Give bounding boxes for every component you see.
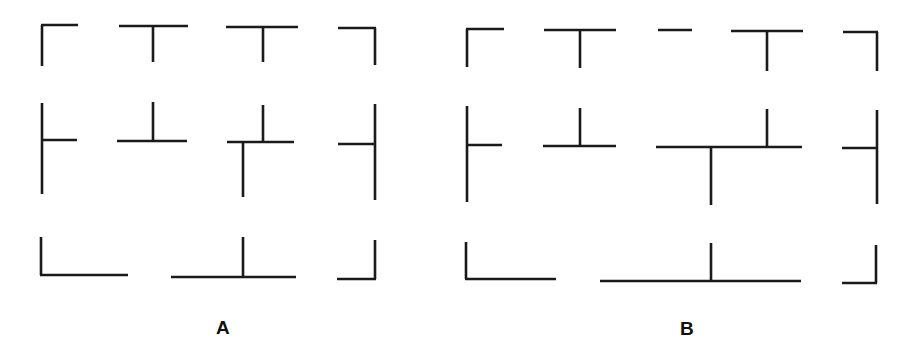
wall-piece-tee-left-middle [42,103,77,194]
wall-piece-tee-right-middle [842,110,877,204]
wall-piece-tee-top-1 [119,26,188,62]
wall-piece-tee-inverted-bottom [171,237,296,277]
wall-piece-corner-bottom-left [465,242,556,279]
wall-piece-tee-top-1 [544,30,616,68]
wall-piece-tee-top-2 [731,31,803,71]
wall-piece-tee-inverted-middle-1 [117,102,187,141]
figure-b-label: B [680,319,694,338]
figure-a [40,25,376,279]
wall-piece-corner-bottom-right [337,240,376,279]
wall-piece-corner-bottom-right [842,245,877,283]
figure-a-label: A [216,318,230,337]
wall-piece-tee-left-middle [467,106,502,202]
wall-piece-tee-right-middle [338,104,375,200]
wall-piece-corner-top-left [466,29,504,67]
wall-piece-long-tee-inverted-bottom [600,243,801,281]
wall-piece-corner-top-right [338,28,376,65]
wall-piece-corner-bottom-left [40,237,128,275]
diagram-canvas [0,0,909,353]
wall-piece-corner-top-left [41,25,78,66]
figure-b [465,29,878,283]
wall-piece-tee-inverted-middle-1 [543,108,616,146]
wall-piece-corner-top-right [843,32,878,71]
wall-piece-tee-top-2 [226,27,298,62]
wall-piece-cross-offset-middle [227,105,294,197]
wall-piece-long-bar-middle [656,109,802,205]
